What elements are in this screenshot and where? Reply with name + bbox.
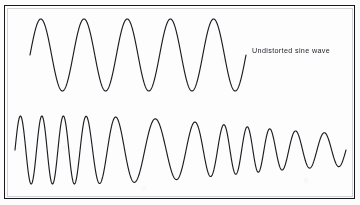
undistorted-sine-wave-label: Undistorted sine wave (252, 46, 330, 55)
figure-container: Undistorted sine wave (0, 0, 360, 205)
distorted-sine-wave-path (15, 116, 346, 184)
undistorted-sine-wave-path (30, 19, 246, 91)
waveform-plot-area (0, 0, 360, 205)
